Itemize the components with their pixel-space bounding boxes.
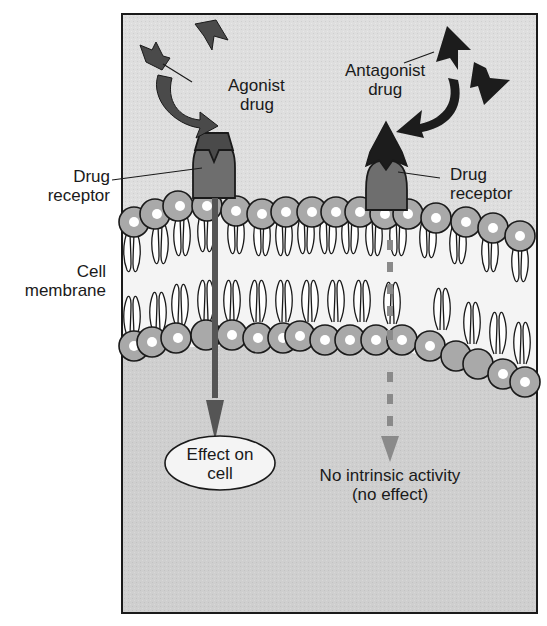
cell-membrane-label: Cell membrane <box>10 262 106 300</box>
agonist-label: Agonist drug <box>228 76 285 114</box>
drug-receptor-left-label: Drug receptor <box>30 167 110 205</box>
no-intrinsic-activity-label: No intrinsic activity (no effect) <box>305 466 475 504</box>
effect-on-cell-label: Effect on cell <box>170 445 270 483</box>
antagonist-label: Antagonist drug <box>345 61 425 99</box>
drug-receptor-right-label: Drug receptor <box>450 165 512 203</box>
